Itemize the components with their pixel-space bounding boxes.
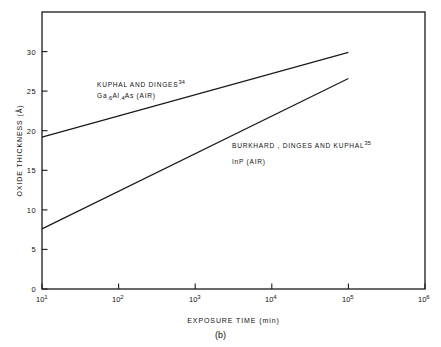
xtick-exponent: 5 [350,294,353,300]
xtick-exponent: 3 [197,294,200,300]
annotation-burkhard-dinges-kuphal: BURKHARD , DINGES AND KUPHAL35 InP (AIR) [232,141,371,167]
y-tick-marks [42,52,48,289]
x-axis-title: EXPOSURE TIME (min) [42,317,425,324]
series-line-kuphal-dinges [42,52,348,137]
annotation-text: BURKHARD , DINGES AND KUPHAL [232,142,364,149]
annotation-text: KUPHAL AND DINGES [97,81,178,88]
formula-ga: Ga [97,92,107,99]
xtick-label-1e3: 103 [189,295,201,304]
xtick-label-1e6: 106 [418,295,430,304]
xtick-exponent: 4 [273,294,276,300]
xtick-label-1e4: 104 [265,295,277,304]
annotation-reference: 34 [178,79,185,85]
chart-canvas [0,0,441,347]
formula-al: Al [112,92,119,99]
annotation-line-2: InP (AIR) [232,157,371,168]
x-tick-marks [42,284,425,290]
annotation-line-1: KUPHAL AND DINGES34 [97,80,185,91]
annotation-kuphal-dinges: KUPHAL AND DINGES34 Ga.6Al.4As (AIR) [97,80,185,101]
xtick-label-1e1: 101 [36,295,48,304]
formula-as-air: As (AIR) [125,92,156,99]
annotation-line-2: Ga.6Al.4As (AIR) [97,91,185,102]
figure-panel-b: 0 5 10 15 20 25 30 101 102 103 104 105 1… [0,0,441,347]
xtick-label-1e5: 105 [342,295,354,304]
annotation-reference: 35 [364,140,371,146]
xtick-exponent: 6 [426,294,429,300]
xtick-label-1e2: 102 [112,295,124,304]
y-axis-title: OXIDE THICKNESS (Å) [14,12,26,289]
xtick-exponent: 2 [120,294,123,300]
xtick-exponent: 1 [44,294,47,300]
figure-caption: (b) [0,330,441,340]
annotation-line-1: BURKHARD , DINGES AND KUPHAL35 [232,141,371,152]
